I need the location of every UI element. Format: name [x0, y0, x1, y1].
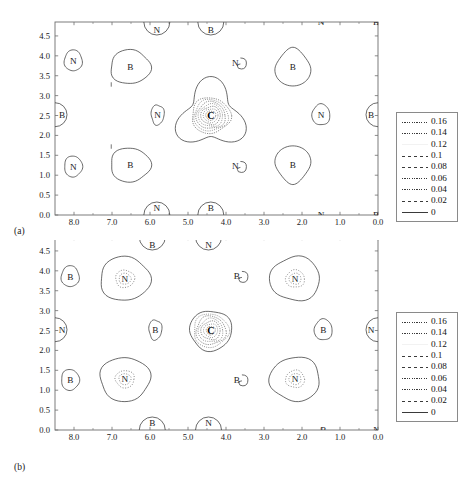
legend-label: 0.08: [431, 161, 453, 172]
atom-site: N: [151, 105, 164, 126]
atom-label: N: [205, 240, 212, 250]
atom-site: N: [55, 318, 67, 342]
atom-label: N: [232, 58, 239, 68]
legend-line-sample: [402, 209, 428, 216]
atom-label: N: [318, 110, 325, 120]
legend-entry: 0: [400, 206, 453, 217]
atom-label: B: [234, 271, 240, 281]
atom-site: B: [295, 240, 301, 242]
x-tick-label: 3.0: [259, 432, 270, 442]
x-tick-label: 8.0: [69, 432, 80, 442]
atom-site: N: [144, 202, 170, 215]
y-tick-label: 1.5: [39, 150, 50, 160]
atom-label: N: [368, 325, 375, 335]
y-tick-label: 0.5: [39, 190, 50, 200]
legend-line-sample: [402, 341, 428, 348]
legend-label: 0.1: [431, 150, 453, 161]
y-tick-label: 4.0: [39, 51, 50, 61]
atom-site: N: [269, 256, 319, 301]
atom-label: B: [149, 240, 155, 250]
legend-label: 0.04: [431, 184, 453, 195]
y-tick-label: 3.5: [39, 71, 50, 81]
x-tick-label: 6.0: [145, 217, 156, 227]
atom-site: N: [100, 358, 151, 402]
legend-line-sample: [402, 363, 428, 370]
y-tick-label: 2.0: [39, 130, 50, 140]
x-tick-label: 0.0: [373, 432, 384, 442]
legend-entry: 0.06: [400, 172, 453, 183]
x-tick-label: 1.0: [335, 432, 346, 442]
legend-entry: 0.06: [400, 372, 453, 383]
atom-label: B: [290, 160, 296, 170]
y-tick-label: 3.5: [39, 286, 50, 296]
atom-site: N: [144, 22, 170, 35]
x-tick-label: 4.0: [221, 432, 232, 442]
legend-entry: 0.16: [400, 316, 453, 327]
atom-site: N: [366, 318, 378, 342]
atom-site: N: [373, 240, 380, 242]
panel-a: 8.07.06.05.04.03.02.01.00.00.00.51.01.52…: [0, 0, 463, 240]
atom-site: B: [139, 240, 165, 250]
legend-entry: 0.12: [400, 339, 453, 350]
atom-label: B: [290, 62, 296, 72]
legend-label: 0.04: [431, 384, 453, 395]
atom-site: N: [318, 17, 325, 27]
legend-line-sample: [402, 329, 428, 336]
y-tick-label: 1.0: [39, 170, 50, 180]
atom-site: N: [64, 50, 82, 71]
x-tick-label: 8.0: [69, 217, 80, 227]
x-tick-label: 2.0: [297, 432, 308, 442]
legend-label: 0: [431, 407, 453, 418]
legend-line-sample: [402, 141, 428, 148]
atom-site: N: [65, 156, 83, 177]
legend-entry: 0.1: [400, 350, 453, 361]
legend-entry: 0.1: [400, 150, 453, 161]
panel-b: 8.07.06.05.04.03.02.01.00.00.00.51.01.52…: [0, 240, 463, 480]
legend-label: 0.06: [431, 373, 453, 384]
y-tick-label: 2.5: [39, 111, 50, 121]
atom-label: C: [207, 110, 214, 121]
atom-site: N: [101, 256, 151, 300]
legend-line-sample: [402, 118, 428, 125]
y-tick-label: 3.0: [39, 306, 50, 316]
atom-label: N: [205, 418, 212, 428]
atom-label: B: [127, 160, 133, 170]
x-tick-label: 5.0: [183, 217, 194, 227]
atom-site: C: [175, 77, 246, 142]
atom-site: B: [198, 202, 224, 215]
legend-line-sample: [402, 129, 428, 136]
legend-entry: 0.04: [400, 184, 453, 195]
atom-site: N: [196, 240, 222, 250]
legend-label: 0: [431, 207, 453, 218]
legend-line-sample: [402, 152, 428, 159]
atom-label: B: [127, 62, 133, 72]
y-tick-label: 0.5: [39, 405, 50, 415]
legend-entry: 0.12: [400, 139, 453, 150]
y-tick-label: 3.0: [39, 91, 50, 101]
legend-line-sample: [402, 197, 428, 204]
legend-label: 0.06: [431, 173, 453, 184]
y-tick-label: 4.5: [39, 31, 50, 41]
y-tick-label: 4.0: [39, 266, 50, 276]
legend-entry: 0.02: [400, 195, 453, 206]
legend-label: 0.12: [431, 339, 453, 350]
legend-line-sample: [402, 186, 428, 193]
atom-label: B: [368, 110, 374, 120]
y-tick-label: 1.5: [39, 365, 50, 375]
atom-label: N: [373, 240, 380, 242]
atom-label: N: [70, 162, 77, 172]
legend-entry: 0.08: [400, 161, 453, 172]
legend-line-sample: [402, 409, 428, 416]
atom-label: N: [232, 161, 239, 171]
legend-entry: 0.04: [400, 384, 453, 395]
atom-site: B: [275, 146, 311, 185]
y-tick-label: 1.0: [39, 385, 50, 395]
atom-label: N: [318, 17, 325, 27]
x-tick-label: 0.0: [373, 217, 384, 227]
legend-line-sample: [402, 318, 428, 325]
x-tick-label: 5.0: [183, 432, 194, 442]
y-tick-label: 0.0: [39, 425, 50, 435]
legend-line-sample: [402, 386, 428, 393]
atom-label: B: [149, 418, 155, 428]
legend-entry: 0: [400, 406, 453, 417]
